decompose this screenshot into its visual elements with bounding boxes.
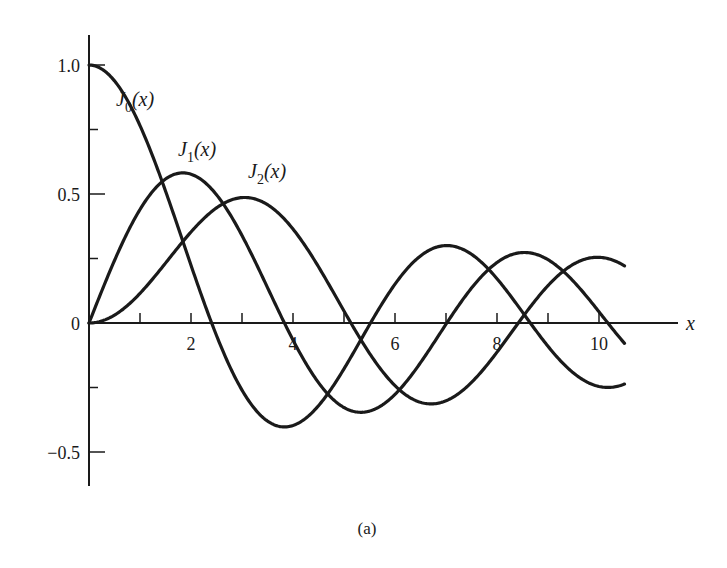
axes: x	[89, 35, 695, 486]
x-tick-label: 2	[187, 334, 196, 354]
figure-caption: (a)	[358, 519, 377, 538]
x-tick-label: 10	[590, 334, 608, 354]
label-j1: J1(x)	[178, 138, 216, 165]
curves	[89, 65, 625, 427]
label-j2: J2(x)	[248, 160, 286, 187]
curve-labels: J0(x) J1(x) J2(x)	[116, 88, 286, 187]
y-tick-label: 0.5	[58, 185, 81, 205]
curve-j0	[89, 65, 625, 427]
y-ticks: 1.00.50−0.5	[47, 56, 105, 463]
y-tick-label: −0.5	[47, 443, 80, 463]
y-tick-label: 0	[71, 314, 80, 334]
y-tick-label: 1.0	[58, 56, 81, 76]
curve-j2	[89, 197, 625, 403]
x-tick-label: 6	[391, 334, 400, 354]
curve-j1	[89, 173, 625, 412]
label-j0: J0(x)	[116, 88, 154, 115]
bessel-chart: x 246810 1.00.50−0.5 J0(x) J1(x) J2(x) (…	[0, 0, 727, 568]
x-axis-label: x	[685, 312, 695, 334]
